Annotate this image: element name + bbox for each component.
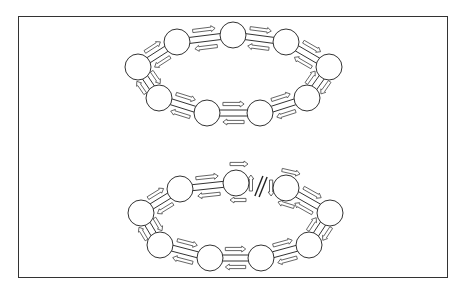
reverse-arrow-icon xyxy=(248,44,269,51)
ring-node xyxy=(194,100,220,126)
ring-node xyxy=(248,245,274,271)
reverse-arrow-icon xyxy=(273,238,293,247)
reverse-arrow-icon xyxy=(198,192,221,199)
forward-arrow-icon xyxy=(303,186,321,198)
forward-arrow-icon xyxy=(225,264,245,270)
reverse-arrow-icon xyxy=(225,246,245,252)
ring-node xyxy=(164,29,190,55)
bond-line xyxy=(188,39,223,43)
reverse-arrow-icon xyxy=(305,71,315,84)
forward-arrow-icon xyxy=(230,161,248,167)
reverse-arrow-icon xyxy=(230,197,246,203)
ring-node xyxy=(223,170,249,196)
reverse-arrow-icon xyxy=(295,203,313,215)
ring-node xyxy=(247,100,273,126)
forward-arrow-icon xyxy=(173,256,193,265)
bond-line xyxy=(187,33,222,37)
ring-diagram xyxy=(0,0,467,291)
forward-arrow-icon xyxy=(278,256,298,265)
ring-node xyxy=(294,85,320,111)
reverse-arrow-icon xyxy=(176,92,196,101)
ring-node xyxy=(167,176,193,202)
bond-line xyxy=(191,187,226,191)
ring-node xyxy=(128,200,154,226)
forward-arrow-icon xyxy=(223,119,244,125)
forward-arrow-icon xyxy=(303,40,321,52)
bond-line xyxy=(190,181,225,185)
ring-node xyxy=(146,85,172,111)
bond-line xyxy=(244,33,276,37)
ring-node xyxy=(273,29,299,55)
reverse-arrow-icon xyxy=(223,101,244,107)
reverse-arrow-icon xyxy=(195,44,218,51)
forward-arrow-icon xyxy=(323,227,333,241)
reverse-arrow-icon xyxy=(157,203,174,214)
forward-arrow-icon xyxy=(250,27,271,34)
ring-node xyxy=(317,200,343,226)
ring-node xyxy=(296,232,322,258)
ring-node xyxy=(316,54,342,80)
forward-arrow-icon xyxy=(196,173,219,180)
ring-node xyxy=(125,54,151,80)
forward-arrow-icon xyxy=(171,109,191,118)
bond-line xyxy=(243,39,275,43)
forward-arrow-icon xyxy=(138,227,148,241)
ring-node xyxy=(273,175,299,201)
forward-arrow-icon xyxy=(193,26,216,33)
reverse-arrow-icon xyxy=(278,200,295,208)
break-mark xyxy=(255,176,263,196)
ring-node xyxy=(220,22,246,48)
break-mark xyxy=(259,177,267,197)
forward-arrow-icon xyxy=(147,188,164,199)
forward-arrow-icon xyxy=(321,81,331,94)
reverse-arrow-icon xyxy=(153,217,163,231)
reverse-arrow-icon xyxy=(155,56,171,68)
reverse-arrow-icon xyxy=(306,218,316,232)
reverse-arrow-icon xyxy=(177,239,197,248)
reverse-arrow-icon xyxy=(294,57,312,69)
forward-arrow-icon xyxy=(144,42,160,54)
forward-arrow-icon xyxy=(277,110,296,119)
reverse-arrow-icon xyxy=(271,92,290,101)
ring-node xyxy=(147,232,173,258)
ring-node xyxy=(197,245,223,271)
